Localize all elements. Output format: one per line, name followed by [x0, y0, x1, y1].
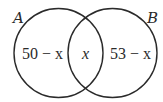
region-a-only: 50 − x	[22, 45, 63, 62]
region-b-only: 53 − x	[110, 45, 151, 62]
set-label-a: A	[11, 9, 24, 27]
set-label-b: B	[146, 9, 158, 27]
region-intersection: x	[81, 45, 89, 62]
venn-diagram: A B 50 − x x 53 − x	[0, 0, 163, 102]
